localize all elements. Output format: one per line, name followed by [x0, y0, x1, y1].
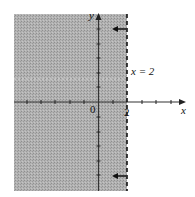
x-axis-label: x	[180, 104, 186, 116]
inequality-graph: y x 0 2 x = 2	[0, 0, 195, 197]
y-axis-label: y	[88, 9, 94, 21]
boundary-equation-label: x = 2	[130, 65, 155, 77]
boundary-tick-label: 2	[124, 106, 130, 118]
origin-label: 0	[90, 103, 96, 115]
